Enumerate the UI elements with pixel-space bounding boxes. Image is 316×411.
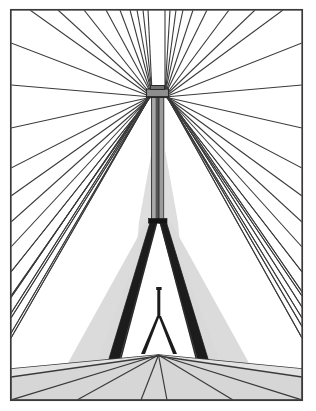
tower-cap-top-plate xyxy=(151,86,165,90)
bridge-illustration xyxy=(0,0,316,411)
tower-shaft-right-face xyxy=(159,97,164,223)
tower-shaft-left-face xyxy=(152,97,157,223)
bridge-drawing-canvas xyxy=(0,0,316,411)
tower-crossbeam xyxy=(149,219,168,224)
secondary-mast-shaft xyxy=(157,289,160,318)
scene-contents xyxy=(0,10,316,400)
